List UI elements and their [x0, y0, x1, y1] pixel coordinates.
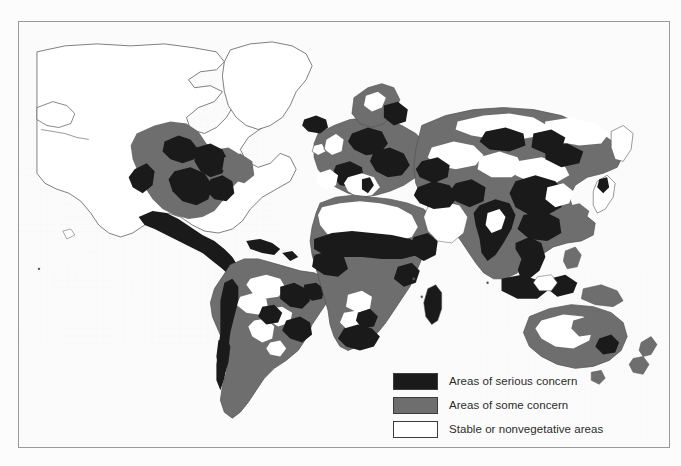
legend-label-stable: Stable or nonvegetative areas [449, 421, 603, 438]
legend-item-some: Areas of some concern [393, 394, 623, 416]
figure-root: Areas of serious concern Areas of some c… [0, 0, 681, 466]
map-frame: Areas of serious concern Areas of some c… [18, 21, 670, 448]
legend-label-some: Areas of some concern [449, 397, 568, 414]
legend-item-stable: Stable or nonvegetative areas [393, 418, 623, 440]
legend-swatch-some [393, 397, 438, 414]
legend-label-serious: Areas of serious concern [449, 373, 577, 390]
legend-swatch-stable [393, 421, 438, 438]
legend-item-serious: Areas of serious concern [393, 370, 623, 392]
map-legend: Areas of serious concern Areas of some c… [393, 370, 623, 444]
legend-swatch-serious [393, 373, 438, 390]
